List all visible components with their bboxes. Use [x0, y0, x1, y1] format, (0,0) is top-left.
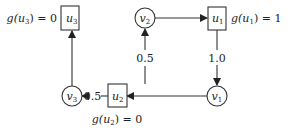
node-u1: u1	[208, 7, 226, 30]
node-v2: v2	[135, 8, 155, 28]
annotation-g-u3: g(u3) = 0	[7, 12, 57, 26]
annotation-g-u2: g(u2) = 0	[92, 113, 142, 127]
node-v1: v1	[207, 86, 227, 106]
edge-label-u2-v3: 0.5	[84, 90, 102, 103]
node-u2: u2	[108, 84, 127, 107]
graph-diagram: 1.0 0.5 0.5 u3 g(u3) = 0 v2 u1 g(u1) = 1…	[0, 0, 290, 129]
edge-label-u1-v1: 1.0	[208, 52, 226, 65]
node-v3: v3	[62, 86, 82, 106]
edge-label-u2-v2: 0.5	[136, 52, 154, 65]
node-u3: u3	[61, 6, 79, 30]
annotation-g-u1: g(u1) = 1	[231, 12, 281, 26]
